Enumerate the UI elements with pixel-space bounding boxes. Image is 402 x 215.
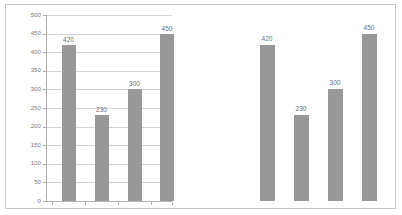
- y-tick-mark-50: [43, 182, 47, 183]
- x-tick-mark-2: [118, 202, 119, 205]
- y-tick-mark-400: [43, 52, 47, 53]
- x-tick-mark-0: [52, 202, 53, 205]
- y-tick-label-500: 500: [11, 12, 41, 19]
- bar-label-left-1: 230: [87, 106, 117, 114]
- x-tick-mark-3: [151, 202, 152, 205]
- x-tick-mark-1: [85, 202, 86, 205]
- bar-label-right-2: 300: [320, 79, 350, 87]
- bar-label-left-2: 300: [120, 80, 150, 88]
- bar-label-left-3: 450: [152, 25, 182, 33]
- x-tick-mark-4: [172, 202, 173, 205]
- y-tick-mark-450: [43, 34, 47, 35]
- y-tick-label-200: 200: [11, 123, 41, 130]
- y-tick-mark-150: [43, 145, 47, 146]
- y-tick-label-50: 50: [11, 179, 41, 186]
- y-tick-label-300: 300: [11, 86, 41, 93]
- y-tick-mark-200: [43, 127, 47, 128]
- y-tick-label-250: 250: [11, 105, 41, 112]
- bar-right-1: [294, 115, 309, 201]
- gridline-0: [47, 201, 172, 202]
- bar-label-left-0: 420: [54, 36, 84, 44]
- y-tick-mark-300: [43, 89, 47, 90]
- y-tick-label-350: 350: [11, 67, 41, 74]
- bar-label-right-1: 230: [286, 105, 316, 113]
- figure-canvas: 0501001502002503003504004505004202303004…: [0, 0, 402, 215]
- bar-left-0: [62, 45, 76, 201]
- y-tick-mark-350: [43, 71, 47, 72]
- y-tick-label-150: 150: [11, 142, 41, 149]
- bar-label-right-0: 420: [252, 35, 282, 43]
- y-tick-label-0: 0: [11, 198, 41, 205]
- bar-left-2: [128, 89, 142, 201]
- gridline-500: [47, 15, 172, 16]
- y-tick-label-450: 450: [11, 30, 41, 37]
- y-tick-mark-250: [43, 108, 47, 109]
- bar-right-0: [260, 45, 275, 201]
- y-tick-label-100: 100: [11, 160, 41, 167]
- bar-left-1: [95, 115, 109, 201]
- bar-label-right-3: 450: [354, 24, 384, 32]
- bar-right-2: [328, 89, 343, 201]
- y-tick-mark-0: [43, 201, 47, 202]
- gridline-450: [47, 34, 172, 35]
- y-tick-mark-500: [43, 15, 47, 16]
- bar-left-3: [160, 34, 174, 201]
- bar-right-3: [362, 34, 377, 201]
- y-tick-mark-100: [43, 164, 47, 165]
- y-tick-label-400: 400: [11, 49, 41, 56]
